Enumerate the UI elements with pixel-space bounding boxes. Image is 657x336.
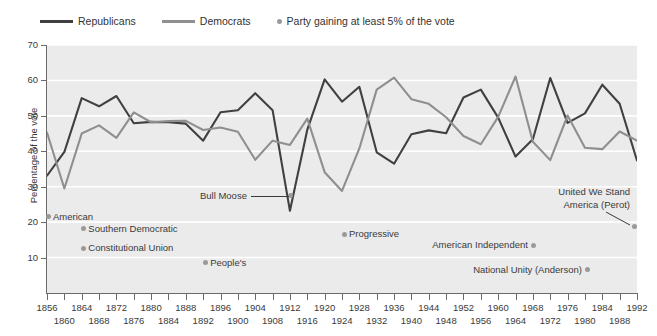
annotation-dot-perot bbox=[632, 224, 637, 229]
annotation-label-american-independent: American Independent bbox=[0, 239, 528, 251]
annotation-label-perot-line1: United We Stand bbox=[522, 186, 630, 199]
x-tick-mark bbox=[394, 294, 395, 300]
series-line-democrats bbox=[47, 77, 637, 191]
x-tick-mark bbox=[533, 294, 534, 300]
annotation-label-perot: United We StandAmerica (Perot) bbox=[522, 186, 630, 211]
x-tick-mark bbox=[47, 294, 48, 300]
x-tick-mark bbox=[116, 294, 117, 300]
legend-label-republicans: Republicans bbox=[78, 15, 136, 27]
legend-item-democrats: Democrats bbox=[162, 15, 251, 27]
third-party-dot-icon bbox=[277, 19, 282, 24]
annotation-label-bull-moose: Bull Moose bbox=[0, 190, 247, 202]
x-tick-mark bbox=[134, 294, 135, 300]
x-tick-mark bbox=[516, 294, 517, 300]
y-tick-label: 20 bbox=[14, 216, 38, 227]
y-tick-label: 50 bbox=[14, 110, 38, 121]
x-tick-mark bbox=[411, 294, 412, 300]
x-tick-label: 1988 bbox=[600, 315, 640, 326]
x-tick-mark bbox=[290, 294, 291, 300]
x-tick-mark bbox=[342, 294, 343, 300]
y-tick-mark bbox=[41, 80, 47, 81]
y-tick-mark bbox=[41, 222, 47, 223]
x-tick-mark bbox=[151, 294, 152, 300]
annotation-label-national-unity: National Unity (Anderson) bbox=[0, 264, 582, 276]
x-tick-mark bbox=[498, 294, 499, 300]
x-tick-label: 1992 bbox=[617, 302, 657, 313]
x-tick-mark bbox=[255, 294, 256, 300]
x-tick-mark bbox=[550, 294, 551, 300]
annotation-leader-bull-moose bbox=[251, 196, 289, 197]
annotation-label-southern-democratic: Southern Democratic bbox=[88, 223, 177, 235]
x-tick-mark bbox=[377, 294, 378, 300]
x-tick-mark bbox=[637, 294, 638, 300]
plot-area bbox=[47, 45, 637, 293]
x-tick-mark bbox=[585, 294, 586, 300]
legend-item-third-party: Party gaining at least 5% of the vote bbox=[277, 15, 455, 27]
x-tick-mark bbox=[203, 294, 204, 300]
plot-svg bbox=[47, 45, 637, 293]
y-tick-label: 40 bbox=[14, 145, 38, 156]
x-tick-mark bbox=[446, 294, 447, 300]
annotation-dot-progressive bbox=[342, 232, 347, 237]
democrats-line-swatch bbox=[162, 20, 195, 23]
y-tick-label: 10 bbox=[14, 252, 38, 263]
x-tick-mark bbox=[602, 294, 603, 300]
chart-root: Republicans Democrats Party gaining at l… bbox=[0, 0, 657, 336]
legend-label-third-party: Party gaining at least 5% of the vote bbox=[287, 15, 455, 27]
x-tick-mark bbox=[99, 294, 100, 300]
x-tick-mark bbox=[429, 294, 430, 300]
x-tick-mark bbox=[168, 294, 169, 300]
x-tick-mark bbox=[359, 294, 360, 300]
x-tick-mark bbox=[238, 294, 239, 300]
x-tick-mark bbox=[463, 294, 464, 300]
x-tick-mark bbox=[64, 294, 65, 300]
chart-legend: Republicans Democrats Party gaining at l… bbox=[40, 12, 481, 30]
x-tick-mark bbox=[186, 294, 187, 300]
x-tick-mark bbox=[325, 294, 326, 300]
y-tick-label: 60 bbox=[14, 74, 38, 85]
x-tick-mark bbox=[82, 294, 83, 300]
republicans-line-swatch bbox=[40, 20, 73, 23]
x-tick-mark bbox=[273, 294, 274, 300]
annotation-label-perot-line2: America (Perot) bbox=[522, 199, 630, 212]
y-tick-mark bbox=[41, 116, 47, 117]
y-tick-label: 70 bbox=[14, 39, 38, 50]
legend-label-democrats: Democrats bbox=[200, 15, 251, 27]
x-tick-mark bbox=[307, 294, 308, 300]
x-tick-mark bbox=[568, 294, 569, 300]
x-tick-mark bbox=[620, 294, 621, 300]
x-tick-mark bbox=[481, 294, 482, 300]
x-tick-mark bbox=[221, 294, 222, 300]
y-tick-mark bbox=[41, 187, 47, 188]
legend-item-republicans: Republicans bbox=[40, 15, 136, 27]
annotation-label-american: American bbox=[53, 211, 93, 223]
y-tick-mark bbox=[41, 258, 47, 259]
annotation-dot-american bbox=[46, 214, 51, 219]
y-tick-mark bbox=[41, 45, 47, 46]
y-tick-mark bbox=[41, 151, 47, 152]
